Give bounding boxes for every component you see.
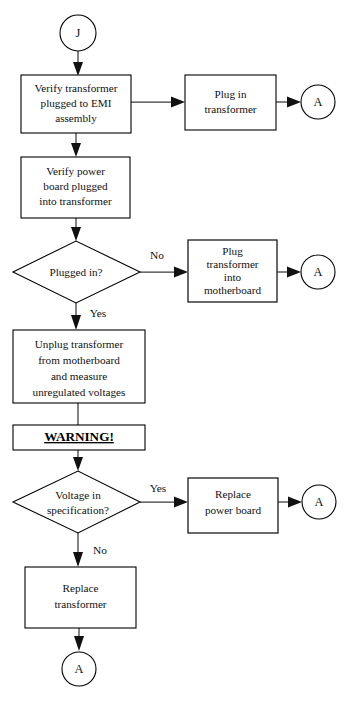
node-unplug-measure[interactable]: Unplug transformer from motherboard and … (13, 330, 145, 403)
node-plug-in-transformer[interactable]: Plug in transformer (185, 75, 276, 130)
edge-replace-transformer-to-connector-a4 (74, 628, 84, 651)
node-replace-power-board[interactable]: Replace power board (188, 478, 278, 533)
edge-label-voltage-no: No (93, 544, 107, 556)
edge-start-to-verify-transformer (73, 51, 83, 76)
edge-replace-power-board-to-connector-a3 (278, 497, 302, 508)
connector-a-3-label: A (315, 495, 324, 509)
node-decision-voltage[interactable]: Voltage in specification? (13, 471, 140, 533)
start-connector-label: J (76, 26, 81, 40)
unplug-measure-line3: and measure (51, 370, 107, 382)
unplug-measure-line2: from motherboard (38, 354, 120, 366)
verify-power-board-line3: into transformer (39, 195, 112, 207)
connector-a-4-label: A (75, 662, 84, 676)
replace-power-board-line2: power board (205, 504, 262, 516)
verify-transformer-line1: Verify transformer (35, 82, 118, 94)
edge-label-voltage-yes: Yes (150, 482, 167, 494)
decision-plugged-in-label: Plugged in? (49, 266, 102, 278)
node-connector-a-1[interactable]: A (301, 85, 335, 119)
edge-warning-to-voltage-decision (73, 450, 83, 471)
node-decision-plugged-in[interactable]: Plugged in? (13, 241, 140, 303)
plug-in-transformer-line1: Plug in (214, 88, 246, 100)
flowchart-svg: J Verify transformer plugged to EMI asse… (0, 0, 348, 701)
decision-voltage-line2: specification? (47, 504, 109, 516)
replace-transformer-line2: transformer (54, 598, 106, 610)
unplug-measure-line1: Unplug transformer (35, 338, 124, 350)
edge-voltage-no (73, 533, 83, 567)
warning-label: WARNING! (44, 429, 114, 444)
decision-voltage-line1: Voltage in (55, 489, 101, 501)
edge-verify-transformer-to-verify-power-board (71, 133, 81, 157)
edge-label-plugged-in-no: No (150, 249, 164, 261)
connector-a-1-label: A (314, 95, 323, 109)
edge-label-plugged-in-yes: Yes (90, 307, 107, 319)
edge-verify-transformer-to-plug-in (131, 97, 185, 108)
edge-verify-power-board-to-decision (71, 218, 81, 241)
plug-in-transformer-line2: transformer (204, 103, 256, 115)
node-connector-a-4[interactable]: A (62, 652, 96, 686)
verify-transformer-line3: assembly (55, 112, 97, 124)
edge-plug-in-to-connector-a1 (276, 97, 301, 108)
node-connector-a-3[interactable]: A (302, 485, 336, 519)
node-start-connector-j[interactable]: J (60, 15, 96, 51)
connector-a-2-label: A (314, 265, 323, 279)
flowchart-canvas: J Verify transformer plugged to EMI asse… (0, 0, 348, 701)
plug-transformer-motherboard-line2: transformer (206, 258, 258, 270)
node-plug-transformer-motherboard[interactable]: Plug transformer into motherboard (188, 240, 277, 302)
plug-transformer-motherboard-line1: Plug (222, 245, 243, 257)
verify-power-board-line2: board plugged (43, 180, 108, 192)
node-verify-transformer[interactable]: Verify transformer plugged to EMI assemb… (21, 75, 131, 133)
verify-transformer-line2: plugged to EMI (41, 97, 112, 109)
node-connector-a-2[interactable]: A (301, 255, 335, 289)
edge-plugged-in-yes (71, 303, 81, 330)
plug-transformer-motherboard-line4: motherboard (204, 284, 262, 296)
node-warning[interactable]: WARNING! (13, 425, 145, 450)
edge-plugged-in-no (140, 267, 188, 278)
verify-power-board-line1: Verify power (46, 165, 105, 177)
plug-transformer-motherboard-line3: into (224, 271, 242, 283)
unplug-measure-line4: unregulated voltages (33, 386, 126, 398)
node-verify-power-board[interactable]: Verify power board plugged into transfor… (21, 157, 130, 218)
replace-power-board-line1: Replace (215, 488, 251, 500)
replace-transformer-line1: Replace (62, 582, 98, 594)
node-replace-transformer[interactable]: Replace transformer (25, 567, 136, 628)
edge-voltage-yes (140, 497, 188, 508)
edge-plug-transformer-to-connector-a2 (277, 267, 301, 278)
